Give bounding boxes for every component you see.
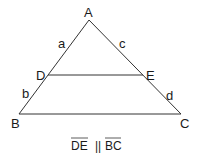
caption-segment-de: DE	[71, 139, 88, 153]
segment-label-a: a	[58, 36, 66, 51]
segment-label-d: d	[166, 88, 173, 103]
vertex-label-d: D	[36, 68, 45, 83]
parallel-caption: DE || BC	[71, 138, 122, 153]
caption-parallel-symbol: ||	[95, 139, 101, 153]
triangle-diagram: A B C D E a b c d DE || BC	[0, 0, 201, 154]
vertex-label-c: C	[180, 116, 189, 131]
vertex-label-a: A	[84, 5, 93, 20]
vertex-label-b: B	[11, 116, 20, 131]
side-ab	[19, 20, 89, 114]
caption-segment-bc: BC	[105, 139, 122, 153]
vertex-label-e: E	[146, 68, 155, 83]
segment-label-b: b	[22, 86, 29, 101]
segment-label-c: c	[119, 36, 126, 51]
